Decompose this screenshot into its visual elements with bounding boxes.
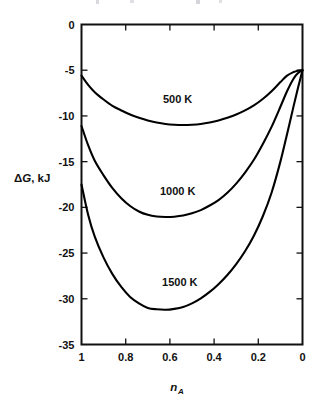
- curve-label-1500-k: 1500 K: [162, 276, 198, 288]
- x-tick-label: 0.2: [251, 351, 266, 363]
- x-tick-label: 0.6: [162, 351, 177, 363]
- x-axis-tick-labels: 10.80.60.40.20: [78, 351, 305, 363]
- y-tick-label: -25: [59, 247, 75, 259]
- chart-canvas: 10.80.60.40.20 0-5-10-15-20-25-30-35 500…: [0, 0, 327, 406]
- x-axis-title-symbol: n: [170, 381, 177, 393]
- y-tick-label: -20: [59, 201, 75, 213]
- y-tick-label: -5: [65, 64, 75, 76]
- y-tick-label: -30: [59, 293, 75, 305]
- y-axis-title-delta: Δ: [14, 172, 22, 184]
- figure-container: 10.80.60.40.20 0-5-10-15-20-25-30-35 500…: [0, 0, 327, 406]
- y-axis-title-units: , kJ: [31, 172, 50, 184]
- y-tick-label: 0: [68, 19, 74, 31]
- curve-series-labels: 500 K1000 K1500 K: [160, 93, 198, 288]
- curve-label-500-k: 500 K: [163, 93, 192, 105]
- y-tick-label: -35: [59, 339, 75, 351]
- y-tick-label: -15: [59, 156, 75, 168]
- y-axis-title: ΔG, kJ: [14, 172, 50, 184]
- x-axis-title-subscript: A: [177, 387, 184, 396]
- x-axis-title: nA: [170, 381, 184, 396]
- y-tick-label: -10: [59, 110, 75, 122]
- x-tick-label: 0.8: [118, 351, 133, 363]
- x-tick-label: 1: [78, 351, 84, 363]
- x-tick-label: 0.4: [206, 351, 222, 363]
- y-axis-title-symbol: G: [22, 172, 31, 184]
- x-tick-label: 0: [299, 351, 305, 363]
- y-axis-tick-labels: 0-5-10-15-20-25-30-35: [59, 19, 75, 351]
- curve-label-1000-k: 1000 K: [160, 185, 196, 197]
